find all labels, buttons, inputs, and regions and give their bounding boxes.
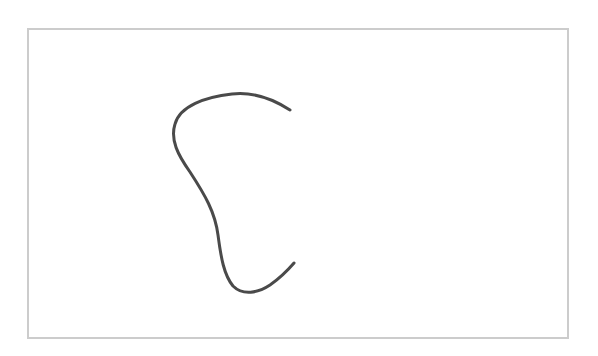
freehand-stroke[interactable]: [173, 94, 294, 293]
stage: [0, 0, 598, 356]
freehand-stroke-layer: [0, 0, 598, 356]
